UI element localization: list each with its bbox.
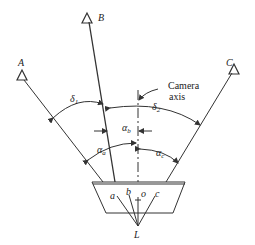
delta2-label: δ2	[152, 102, 160, 114]
diagram-canvas: A B C Camera axis δ1 δ2 αb αa αc a b o c…	[0, 0, 255, 245]
perspective-center-label: L	[134, 230, 140, 240]
image-point-a-label: a	[110, 191, 115, 201]
delta1-label: δ1	[70, 94, 78, 106]
station-c-label: C	[226, 58, 233, 68]
ray-a	[24, 80, 103, 182]
station-b-label: B	[98, 13, 104, 23]
station-a-icon	[17, 70, 27, 80]
camera-axis-label-line2: axis	[169, 91, 185, 102]
image-point-b-label: b	[126, 187, 131, 197]
ray-l-a	[117, 196, 138, 226]
station-a-label: A	[18, 58, 24, 68]
alpha-a-arc	[88, 143, 136, 160]
image-point-c-label: c	[155, 189, 159, 199]
alpha-c-label: αc	[156, 148, 164, 160]
image-point-o-label: o	[141, 189, 146, 199]
camera-axis-label-line1: Camera	[168, 80, 199, 91]
alpha-a-label: αa	[97, 145, 106, 157]
camera-axis-pointer	[139, 89, 158, 100]
alpha-b-label: αb	[122, 123, 131, 135]
station-b-icon	[82, 13, 92, 23]
